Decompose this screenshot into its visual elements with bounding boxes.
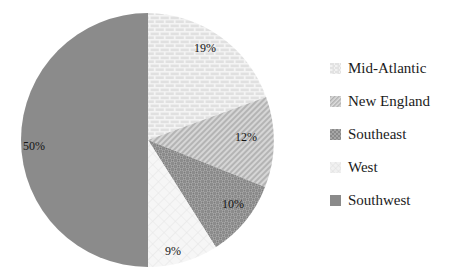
data-label-new-england: 12%	[235, 131, 257, 143]
legend-item-southwest[interactable]: Southwest	[330, 184, 461, 217]
swatch-brick-icon	[330, 63, 341, 74]
swatch-solid-icon	[330, 195, 341, 206]
data-label-southeast: 10%	[222, 198, 244, 210]
legend-item-southeast[interactable]: Southeast	[330, 118, 461, 151]
data-label-southwest: 50%	[23, 140, 45, 152]
swatch-grid-icon	[330, 162, 341, 173]
legend-label-southeast: Southeast	[348, 127, 406, 142]
legend-item-west[interactable]: West	[330, 151, 461, 184]
swatch-dotted-icon	[330, 129, 341, 140]
pie-plot-area: 19% 12% 10% 9% 50%	[0, 0, 300, 274]
legend-label-southwest: Southwest	[348, 193, 411, 208]
legend-item-mid-atlantic[interactable]: Mid-Atlantic	[330, 52, 461, 85]
legend-label-mid-atlantic: Mid-Atlantic	[348, 61, 426, 76]
pie-chart: 19% 12% 10% 9% 50% Mid-Atlantic New Engl…	[0, 0, 461, 274]
chart-legend: Mid-Atlantic New England Southeast West	[330, 52, 461, 217]
swatch-diagonal-icon	[330, 96, 341, 107]
legend-item-new-england[interactable]: New England	[330, 85, 461, 118]
legend-label-west: West	[348, 160, 378, 175]
legend-label-new-england: New England	[348, 94, 430, 109]
data-label-mid-atlantic: 19%	[194, 42, 216, 54]
data-label-west: 9%	[165, 245, 181, 257]
